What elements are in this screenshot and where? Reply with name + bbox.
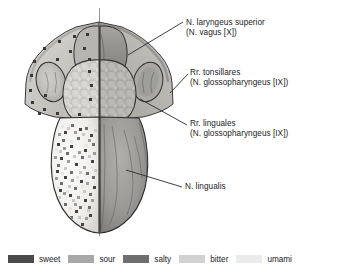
legend-swatch-sour [68,255,94,263]
tongue-body-right [100,117,148,233]
legend-item-sour: sour [68,255,115,264]
legend-label-bitter: bitter [210,255,228,264]
label-linguales-line2: (N. glossopharyngeus [IX]) [190,129,288,139]
legend-swatch-bitter [179,255,205,263]
legend-item-bitter: bitter [179,255,228,264]
label-laryngeus-line2: (N. vagus [X]) [186,28,265,38]
taste-legend: sweet sour salty bitter umami [0,246,340,272]
legend-label-salty: salty [154,255,171,264]
label-rr-linguales: Rr. linguales (N. glossopharyngeus [IX]) [190,119,288,139]
leader-line-tonsillares [170,74,188,93]
tongue-body-group [51,117,148,233]
legend-swatch-salty [123,255,149,263]
legend-swatch-umami [236,255,262,263]
tongue-illustration [0,0,340,240]
tongue-anatomy-figure: N. laryngeus superior (N. vagus [X]) Rr.… [0,0,340,279]
legend-label-sour: sour [99,255,115,264]
legend-item-sweet: sweet [8,255,60,264]
legend-label-umami: umami [267,255,292,264]
label-rr-tonsillares: Rr. tonsillares (N. glossopharyngeus [IX… [190,68,288,88]
label-tonsillares-line1: Rr. tonsillares [190,68,288,78]
label-linguales-line1: Rr. linguales [190,119,288,129]
legend-item-umami: umami [236,255,292,264]
label-lingualis-line1: N. lingualis [185,182,226,192]
label-n-laryngeus-superior: N. laryngeus superior (N. vagus [X]) [186,18,265,38]
legend-swatch-sweet [8,255,34,263]
legend-label-sweet: sweet [39,255,60,264]
label-tonsillares-line2: (N. glossopharyngeus [IX]) [190,78,288,88]
label-laryngeus-line1: N. laryngeus superior [186,18,265,28]
label-n-lingualis: N. lingualis [185,182,226,192]
legend-item-salty: salty [123,255,171,264]
